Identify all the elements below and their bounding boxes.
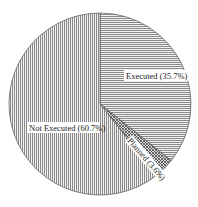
label-executed: Executed (35.7%) bbox=[126, 71, 188, 81]
pie-slices bbox=[9, 13, 191, 195]
pie-chart: Executed (35.7%) Not Executed (60.7%) Pl… bbox=[0, 0, 198, 207]
label-not-executed: Not Executed (60.7%) bbox=[29, 123, 105, 133]
